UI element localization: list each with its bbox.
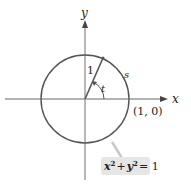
equation-x-exponent: 2 [111, 159, 116, 168]
equation-rhs: = 1 [139, 160, 159, 173]
x-axis-arrow-icon [160, 96, 168, 102]
equation-y-exponent: 2 [133, 159, 138, 168]
y-axis-arrow-icon [82, 20, 88, 28]
circle-point [101, 56, 104, 59]
x-axis-label: x [172, 92, 179, 106]
angle-label: t [101, 83, 106, 94]
equation-plus: + [116, 160, 125, 173]
radius-label: 1 [87, 64, 94, 77]
equation-leader-line [112, 142, 122, 158]
arc-length-label: s [124, 69, 129, 80]
point-label: (1, 0) [133, 105, 163, 118]
y-axis-label: y [80, 6, 88, 20]
unit-circle-diagram: x y 1 s t (1, 0) x2+y2= 1 [0, 0, 191, 188]
